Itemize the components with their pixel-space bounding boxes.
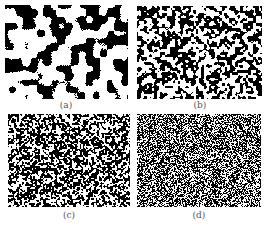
texture-image-a <box>5 5 128 99</box>
texture-image-c <box>8 114 130 207</box>
texture-image-d <box>137 114 261 207</box>
panel-label-b: (b) <box>180 100 220 110</box>
texture-panel-c <box>8 114 130 207</box>
texture-panel-b <box>137 6 262 99</box>
texture-panel-d <box>137 114 261 207</box>
texture-panel-a <box>5 5 128 99</box>
panel-label-c: (c) <box>49 210 89 220</box>
panel-label-d: (d) <box>179 210 219 220</box>
panel-label-a: (a) <box>46 100 86 110</box>
texture-image-b <box>137 6 262 99</box>
